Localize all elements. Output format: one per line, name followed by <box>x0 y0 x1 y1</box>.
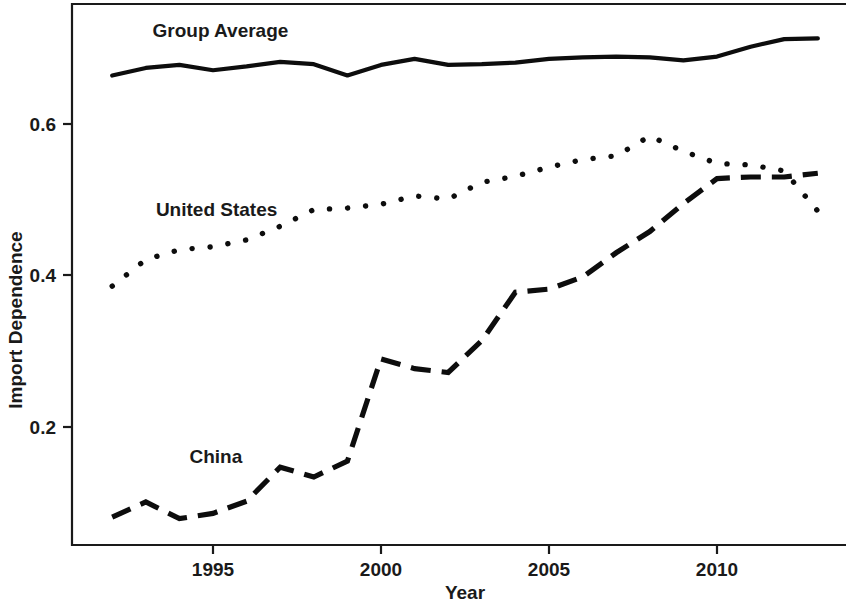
x-tick-label-2000: 2000 <box>360 559 402 580</box>
y-axis-title: Import Dependence <box>5 231 26 408</box>
series-label-china: China <box>190 446 243 467</box>
y-axis-tick-labels: 0.6 0.4 0.2 <box>30 114 57 438</box>
plot-frame <box>72 3 846 545</box>
series-label-united-states: United States <box>156 199 277 220</box>
x-tick-label-2010: 2010 <box>696 559 738 580</box>
series-line-group-average <box>112 38 818 75</box>
chart-figure: 0.6 0.4 0.2 1995 2000 2005 2010 Year Imp… <box>0 0 850 603</box>
x-axis-title: Year <box>445 582 486 603</box>
y-tick-label-0.2: 0.2 <box>30 417 56 438</box>
y-axis-ticks <box>63 124 72 427</box>
x-axis-ticks <box>213 545 717 554</box>
series-label-group-average: Group Average <box>153 20 289 41</box>
x-axis-tick-labels: 1995 2000 2005 2010 <box>192 559 738 580</box>
y-tick-label-0.6: 0.6 <box>30 114 56 135</box>
x-tick-label-2005: 2005 <box>528 559 571 580</box>
import-dependence-line-chart: 0.6 0.4 0.2 1995 2000 2005 2010 Year Imp… <box>0 0 850 603</box>
axis-lines <box>72 3 846 545</box>
series-labels-group: Group Average United States China <box>153 20 289 468</box>
x-tick-label-1995: 1995 <box>192 559 235 580</box>
y-tick-label-0.4: 0.4 <box>30 265 57 286</box>
